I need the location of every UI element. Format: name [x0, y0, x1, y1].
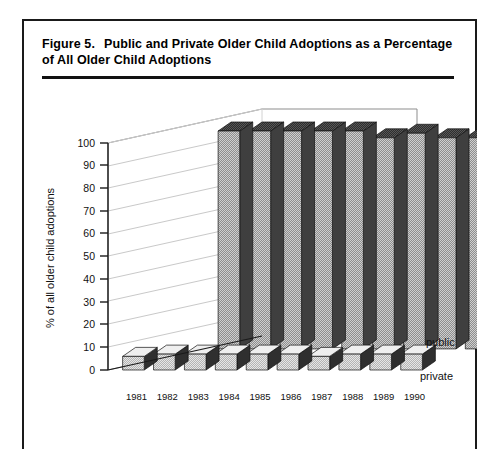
x-tick-label: 1982 — [157, 391, 178, 402]
y-tick-label: 40 — [83, 273, 95, 285]
y-tick-label: 0 — [89, 364, 95, 376]
y-axis-title: % of all older child adoptions — [44, 187, 56, 328]
x-tick-label: 1984 — [219, 391, 240, 402]
legend-label-private: private — [420, 370, 453, 382]
x-tick-label: 1983 — [188, 391, 209, 402]
figure-number: Figure 5. — [42, 37, 95, 51]
y-tick-label: 60 — [83, 227, 95, 239]
legend-label-public: public — [426, 336, 455, 348]
y-axis — [100, 143, 108, 370]
y-tick-label: 50 — [83, 250, 95, 262]
x-tick-label: 1990 — [404, 391, 425, 402]
x-tick-label: 1985 — [249, 391, 270, 402]
x-tick-labels: 1981198219831984198519861987198819891990 — [126, 391, 425, 402]
x-tick-label: 1981 — [126, 391, 147, 402]
y-tick-label: 20 — [83, 318, 95, 330]
title-divider — [42, 76, 454, 79]
series-private-bars — [123, 345, 436, 370]
series-public-bars — [218, 122, 477, 349]
y-tick-label: 30 — [83, 296, 95, 308]
x-tick-label: 1987 — [311, 391, 332, 402]
x-tick-label: 1986 — [280, 391, 301, 402]
y-tick-label: 90 — [83, 159, 95, 171]
y-tick-labels: 100 90 80 70 60 50 40 30 20 10 0 — [77, 137, 95, 376]
y-tick-label: 70 — [83, 205, 95, 217]
bar-chart-3d: 100 90 80 70 60 50 40 30 20 10 0 % of al… — [22, 95, 477, 415]
chart-plot-area: 100 90 80 70 60 50 40 30 20 10 0 % of al… — [22, 95, 477, 415]
y-tick-label: 100 — [77, 137, 95, 149]
figure-title-text: Public and Private Older Child Adoptions… — [42, 37, 452, 67]
x-tick-label: 1989 — [373, 391, 394, 402]
y-tick-label: 80 — [83, 182, 95, 194]
x-tick-label: 1988 — [342, 391, 363, 402]
y-tick-label: 10 — [83, 341, 95, 353]
figure-title: Figure 5.Public and Private Older Child … — [42, 36, 454, 68]
